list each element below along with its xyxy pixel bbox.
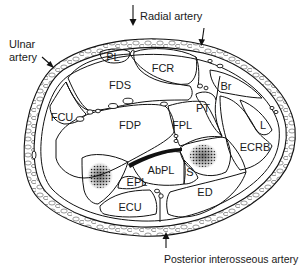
label-AbPL: AbPL (148, 165, 175, 176)
ulnar-artery-label-line1: Ulnar (9, 39, 35, 50)
label-FDS: FDS (109, 80, 131, 91)
label-FPL: FPL (172, 120, 192, 131)
label-FCR: FCR (152, 63, 175, 74)
label-ECU: ECU (118, 202, 141, 213)
label-FDP: FDP (119, 120, 141, 131)
anatomy-drawing (0, 0, 306, 273)
label-Br: Br (221, 81, 232, 92)
muscle-PT (196, 92, 222, 136)
label-ECRB: ECRB (240, 142, 271, 153)
label-PT: PT (196, 103, 210, 114)
radial-artery-label: Radial artery (140, 11, 202, 22)
label-FCU: FCU (51, 112, 74, 123)
label-PL: PL (106, 52, 119, 63)
forearm-cross-section-diagram: Radial artery Ulnar artery Posterior int… (0, 0, 306, 273)
muscle-ECRB (220, 96, 272, 170)
label-ED: ED (197, 187, 212, 198)
label-S: S (186, 167, 193, 178)
posterior-interosseous-artery-label: Posterior interosseous artery (164, 254, 298, 265)
label-EPL: EPL (127, 177, 148, 188)
ulnar-artery-label-line2: artery (9, 52, 37, 63)
label-L: L (260, 120, 266, 131)
